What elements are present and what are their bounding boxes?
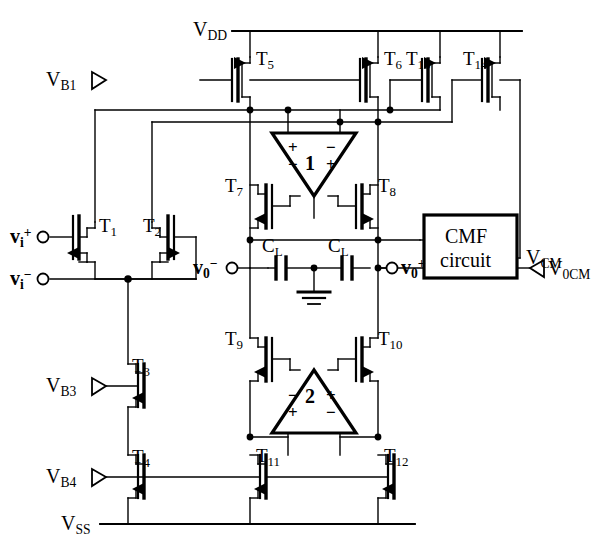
- vi-minus-label: vi−: [10, 268, 32, 291]
- junction-dots: [124, 107, 520, 441]
- vo-plus-terminal: [387, 263, 398, 274]
- t1-label: T1: [99, 216, 117, 239]
- vb3-arrow-terminal: [92, 378, 106, 395]
- t2-label: T2: [143, 216, 161, 239]
- t12-label: T12: [384, 446, 409, 469]
- vb3-label: VB3: [46, 375, 76, 398]
- vo-minus-label: v0−: [193, 257, 218, 280]
- vi-minus-terminal: [38, 274, 49, 285]
- schematic-svg: [0, 0, 593, 553]
- vss-label: VSS: [61, 513, 91, 536]
- t14-label: T14: [463, 49, 488, 72]
- t9-label: T9: [225, 329, 243, 352]
- cmf-line1: CMF: [445, 226, 487, 246]
- amp1-right-sign-bottom: +: [326, 155, 336, 175]
- cl-right-label: CL: [328, 236, 349, 259]
- vb4-arrow-terminal: [92, 469, 106, 486]
- t10-label: T10: [378, 329, 403, 352]
- amp1-number: 1: [305, 152, 315, 175]
- t8-label: T8: [378, 176, 396, 199]
- amp1-left-sign-bottom: −: [288, 155, 298, 175]
- vi-plus-terminal: [38, 232, 49, 243]
- circuit-schematic-canvas: VDD VSS VB1 VB3 VB4 vi+ vi− v0− v0+ T1 T…: [0, 0, 593, 553]
- t5-label: T5: [256, 49, 274, 72]
- amp2-left-sign-bottom: +: [288, 403, 298, 423]
- vdd-label: VDD: [193, 19, 227, 42]
- cmf-line2: circuit: [440, 250, 491, 270]
- amp2-right-sign-bottom: −: [326, 403, 336, 423]
- amp2-number: 2: [305, 385, 315, 408]
- vb4-label: VB4: [46, 466, 76, 489]
- v0cm-label: V0CM: [548, 258, 590, 281]
- t6-label: T6: [384, 49, 402, 72]
- vo-minus-terminal: [227, 263, 238, 274]
- cl-left-label: CL: [262, 236, 283, 259]
- vo-plus-label: v0+: [401, 257, 426, 280]
- vb1-arrow-terminal: [92, 72, 106, 89]
- t3-label: T3: [132, 356, 150, 379]
- vb1-label: VB1: [46, 69, 76, 92]
- t4-label: T4: [132, 447, 150, 470]
- t13-label: T13: [406, 49, 431, 72]
- t11-label: T11: [256, 446, 280, 469]
- vi-plus-label: vi+: [10, 226, 32, 249]
- t7-label: T7: [225, 176, 243, 199]
